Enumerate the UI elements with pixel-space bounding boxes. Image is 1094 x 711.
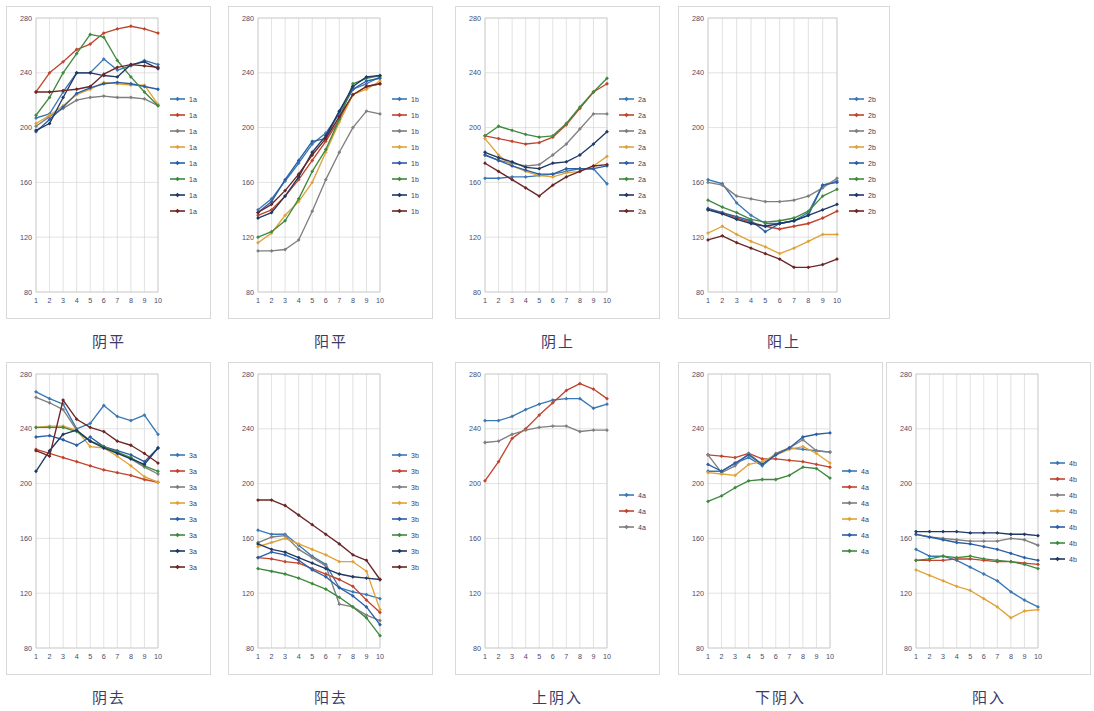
legend-label: 4b	[1069, 524, 1077, 531]
legend-label: 4a	[861, 484, 869, 491]
legend-label: 1a	[189, 160, 197, 167]
x-axis-tick-label: 4	[524, 652, 528, 661]
legend-swatch-marker	[175, 161, 180, 166]
x-axis-tick-label: 5	[760, 652, 764, 661]
legend-swatch-marker	[397, 177, 402, 182]
y-axis-tick-label: 200	[900, 479, 912, 488]
legend-swatch-marker	[624, 509, 629, 514]
legend-label: 1a	[189, 96, 197, 103]
y-axis-tick-label: 80	[473, 288, 481, 297]
legend-swatch-marker	[624, 209, 629, 214]
x-axis-tick-label: 10	[376, 652, 384, 661]
y-axis-tick-label: 280	[692, 14, 704, 23]
y-axis-tick-label: 200	[692, 123, 704, 132]
legend-label: 3a	[189, 532, 197, 539]
legend-label: 3a	[189, 484, 197, 491]
x-axis-tick-label: 10	[154, 296, 162, 305]
legend-swatch-marker	[624, 193, 629, 198]
y-axis-tick-label: 280	[692, 370, 704, 379]
y-axis-tick-label: 80	[24, 288, 32, 297]
x-axis-tick-label: 7	[115, 652, 119, 661]
legend-swatch-marker	[847, 533, 852, 538]
x-axis-tick-label: 8	[578, 652, 582, 661]
x-axis-tick-label: 5	[310, 296, 314, 305]
y-axis-tick-label: 160	[20, 178, 32, 187]
legend-label: 4a	[861, 516, 869, 523]
legend-label: 1b	[411, 128, 419, 135]
x-axis-tick-label: 7	[792, 296, 796, 305]
y-axis-tick-label: 80	[246, 288, 254, 297]
legend-swatch-marker	[175, 565, 180, 570]
legend-label: 1a	[189, 128, 197, 135]
x-axis-tick-label: 9	[591, 296, 595, 305]
x-axis-tick-label: 3	[941, 652, 945, 661]
y-axis-tick-label: 120	[900, 589, 912, 598]
chart-caption: 阳入	[886, 686, 1091, 707]
legend-swatch-marker	[397, 469, 402, 474]
chart-canvas: 28024020016012080123456789101b1b1b1b1b1b…	[229, 7, 434, 320]
x-axis-tick-label: 2	[720, 296, 724, 305]
x-axis-tick-label: 3	[283, 652, 287, 661]
legend-label: 1a	[189, 112, 197, 119]
legend-swatch-marker	[854, 97, 859, 102]
x-axis-tick-label: 6	[551, 296, 555, 305]
chart-canvas: 28024020016012080123456789102a2a2a2a2a2a…	[456, 7, 661, 320]
x-axis-tick-label: 1	[706, 652, 710, 661]
x-axis-tick-label: 5	[88, 652, 92, 661]
x-axis-tick-label: 3	[283, 296, 287, 305]
y-axis-tick-label: 160	[469, 534, 481, 543]
x-axis-tick-label: 4	[749, 296, 753, 305]
x-axis-tick-label: 8	[801, 652, 805, 661]
legend-swatch-marker	[1055, 461, 1060, 466]
legend-swatch-marker	[397, 97, 402, 102]
legend-swatch-marker	[847, 501, 852, 506]
legend-swatch-marker	[397, 549, 402, 554]
y-axis-tick-label: 240	[20, 68, 32, 77]
legend-label: 3b	[411, 532, 419, 539]
legend-label: 4a	[638, 524, 646, 531]
x-axis-tick-label: 2	[720, 652, 724, 661]
y-axis-tick-label: 280	[20, 370, 32, 379]
x-axis-tick-label: 8	[351, 652, 355, 661]
legend-swatch-marker	[1055, 557, 1060, 562]
y-axis-tick-label: 80	[904, 644, 912, 653]
x-axis-tick-label: 2	[270, 296, 274, 305]
y-axis-tick-label: 120	[469, 589, 481, 598]
y-axis-tick-label: 160	[242, 178, 254, 187]
x-axis-tick-label: 10	[833, 296, 841, 305]
legend-label: 2a	[638, 112, 646, 119]
legend-label: 1a	[189, 192, 197, 199]
y-axis-tick-label: 120	[20, 233, 32, 242]
x-axis-tick-label: 7	[115, 296, 119, 305]
x-axis-tick-label: 1	[256, 296, 260, 305]
chart-panel: 28024020016012080123456789104a4a4a	[455, 362, 660, 675]
chart-caption: 阳去	[228, 686, 433, 707]
legend-swatch-marker	[1055, 509, 1060, 514]
y-axis-tick-label: 80	[696, 288, 704, 297]
x-axis-tick-label: 6	[774, 652, 778, 661]
x-axis-tick-label: 7	[564, 652, 568, 661]
x-axis-tick-label: 8	[1009, 652, 1013, 661]
x-axis-tick-label: 3	[510, 652, 514, 661]
x-axis-tick-label: 8	[806, 296, 810, 305]
legend-swatch-marker	[854, 177, 859, 182]
y-axis-tick-label: 280	[469, 370, 481, 379]
chart-canvas: 28024020016012080123456789103b3b3b3b3b3b…	[229, 363, 434, 676]
y-axis-tick-label: 160	[692, 178, 704, 187]
legend-label: 4a	[861, 548, 869, 555]
x-axis-tick-label: 6	[778, 296, 782, 305]
y-axis-tick-label: 200	[20, 479, 32, 488]
x-axis-tick-label: 9	[591, 652, 595, 661]
legend-label: 1b	[411, 160, 419, 167]
legend-swatch-marker	[175, 97, 180, 102]
x-axis-tick-label: 2	[48, 652, 52, 661]
x-axis-tick-label: 7	[995, 652, 999, 661]
y-axis-tick-label: 120	[242, 589, 254, 598]
chart-panel: 28024020016012080123456789104a4a4a4a4a4a	[678, 362, 883, 675]
chart-canvas: 28024020016012080123456789104a4a4a	[456, 363, 661, 676]
x-axis-tick-label: 5	[763, 296, 767, 305]
x-axis-tick-label: 7	[337, 296, 341, 305]
y-axis-tick-label: 280	[242, 14, 254, 23]
legend-label: 2a	[638, 208, 646, 215]
x-axis-tick-label: 5	[310, 652, 314, 661]
